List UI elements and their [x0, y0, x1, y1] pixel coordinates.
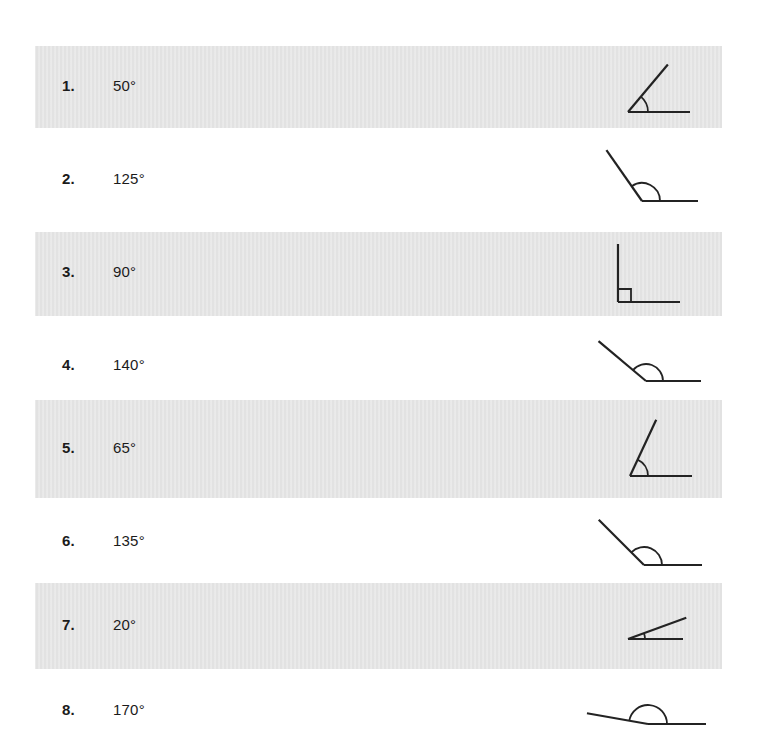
angle-measure-label: 140° [113, 356, 145, 373]
row-number: 8. [62, 701, 75, 718]
angle-arc-marker [641, 97, 648, 112]
row-number: 5. [62, 439, 75, 456]
angle-terminal-ray [599, 520, 644, 565]
right-angle-marker [618, 289, 631, 302]
worksheet-row: 2.125° [0, 145, 759, 215]
angle-arc-marker [638, 460, 648, 476]
angle-diagram [596, 593, 726, 655]
angle-measure-label: 170° [113, 701, 145, 718]
angle-measure-label: 125° [113, 170, 145, 187]
angle-diagram [596, 147, 726, 209]
worksheet-row: 1.50° [0, 46, 759, 128]
angle-diagram [596, 238, 726, 310]
row-number: 3. [62, 263, 75, 280]
angle-terminal-ray [599, 341, 646, 381]
angle-terminal-ray [587, 713, 648, 724]
worksheet-row: 7.20° [0, 583, 759, 669]
worksheet-row: 3.90° [0, 232, 759, 316]
angle-arc-marker [644, 633, 645, 639]
angle-diagram [596, 54, 726, 124]
angle-diagram [596, 688, 736, 744]
angle-measure-label: 65° [113, 439, 136, 456]
angle-measure-label: 90° [113, 263, 136, 280]
angle-terminal-ray [630, 420, 656, 476]
angle-measure-label: 20° [113, 616, 136, 633]
worksheet-row: 6.135° [0, 505, 759, 577]
row-number: 7. [62, 616, 75, 633]
angle-worksheet: 1.50°2.125°3.90°4.140°5.65°6.135°7.20°8.… [0, 0, 759, 744]
angle-terminal-ray [606, 150, 642, 201]
row-number: 6. [62, 532, 75, 549]
angle-diagram [596, 509, 726, 573]
worksheet-row: 5.65° [0, 400, 759, 498]
row-number: 4. [62, 356, 75, 373]
angle-terminal-ray [628, 618, 686, 639]
worksheet-row: 4.140° [0, 331, 759, 401]
row-number: 1. [62, 77, 75, 94]
angle-diagram [596, 414, 726, 486]
worksheet-row: 8.170° [0, 676, 759, 744]
angle-terminal-ray [628, 65, 668, 112]
angle-diagram [596, 333, 726, 395]
angle-measure-label: 135° [113, 532, 145, 549]
angle-measure-label: 50° [113, 77, 136, 94]
row-number: 2. [62, 170, 75, 187]
